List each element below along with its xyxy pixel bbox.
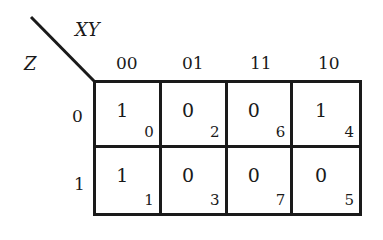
cell-value: 1 bbox=[96, 99, 159, 121]
minterm-index: 5 bbox=[344, 191, 354, 209]
kmap-cell-m1: 11 bbox=[96, 148, 162, 213]
cell-value: 0 bbox=[228, 99, 291, 121]
cell-value: 1 bbox=[293, 99, 359, 121]
minterm-index: 7 bbox=[276, 191, 286, 209]
minterm-index: 1 bbox=[144, 191, 154, 209]
cell-value: 0 bbox=[228, 164, 291, 186]
minterm-index: 2 bbox=[210, 123, 220, 141]
column-header-01: 01 bbox=[182, 55, 204, 72]
kmap-cell-m6: 06 bbox=[228, 83, 294, 148]
minterm-index: 4 bbox=[344, 123, 354, 141]
column-header-00: 00 bbox=[116, 55, 138, 72]
column-variables-label: XY bbox=[75, 21, 100, 39]
row-header-1: 1 bbox=[74, 176, 85, 193]
column-header-10: 10 bbox=[318, 55, 340, 72]
row-header-0: 0 bbox=[72, 108, 83, 125]
kmap-cell-m4: 14 bbox=[293, 83, 359, 148]
row-variable-label: Z bbox=[24, 55, 37, 73]
column-header-11: 11 bbox=[250, 55, 272, 72]
minterm-index: 3 bbox=[210, 191, 220, 209]
cell-value: 0 bbox=[162, 164, 225, 186]
cell-value: 0 bbox=[162, 99, 225, 121]
minterm-index: 0 bbox=[144, 123, 154, 141]
minterm-index: 6 bbox=[276, 123, 286, 141]
kmap-cell-m3: 03 bbox=[162, 148, 228, 213]
karnaugh-map-grid: 10 02 06 14 11 03 07 05 bbox=[93, 80, 362, 216]
kmap-cell-m5: 05 bbox=[293, 148, 359, 213]
cell-value: 1 bbox=[96, 164, 159, 186]
kmap-cell-m7: 07 bbox=[228, 148, 294, 213]
kmap-cell-m0: 10 bbox=[96, 83, 162, 148]
cell-value: 0 bbox=[293, 164, 359, 186]
kmap-cell-m2: 02 bbox=[162, 83, 228, 148]
